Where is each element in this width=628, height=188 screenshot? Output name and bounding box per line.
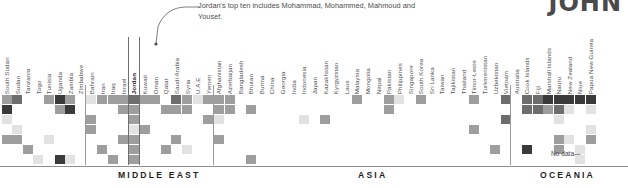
column-label-bahrain: Bahrain	[89, 72, 95, 94]
heatmap-cell[interactable]	[129, 125, 139, 134]
heatmap-cell[interactable]	[129, 105, 139, 114]
column-label-kazakhstan: Kazakhstan	[322, 61, 328, 94]
heatmap-cell[interactable]	[150, 95, 160, 104]
heatmap-cell[interactable]	[586, 135, 596, 144]
heatmap-cell[interactable]	[86, 115, 96, 124]
heatmap-cell[interactable]	[214, 105, 224, 114]
heatmap-cell[interactable]	[299, 115, 309, 124]
heatmap-cell[interactable]	[320, 115, 330, 124]
heatmap-cell[interactable]	[55, 155, 65, 164]
heatmap-cell[interactable]	[140, 95, 150, 104]
heatmap-cell[interactable]	[65, 105, 75, 114]
heatmap-cell[interactable]	[586, 95, 596, 104]
column-label-new-zealand: New Zealand	[567, 56, 573, 94]
heatmap-cell[interactable]	[108, 155, 118, 164]
heatmap-cell[interactable]	[469, 95, 479, 104]
heatmap-cell[interactable]	[246, 105, 256, 114]
heatmap-cell[interactable]	[129, 115, 139, 124]
heatmap-cell[interactable]	[564, 95, 574, 104]
heatmap-cell[interactable]	[129, 135, 139, 144]
heatmap-cell[interactable]	[65, 95, 75, 104]
heatmap-cell[interactable]	[554, 115, 564, 124]
column-label-india: India	[291, 80, 297, 94]
heatmap-cell[interactable]	[522, 95, 532, 104]
heatmap-cell[interactable]	[533, 95, 543, 104]
heatmap-cell[interactable]	[214, 115, 224, 124]
heatmap-cell[interactable]	[384, 105, 394, 114]
annotation-text: Jordan's top ten includes Mohammad, Moha…	[198, 1, 438, 22]
heatmap-cell[interactable]	[2, 135, 12, 144]
heatmap-cell[interactable]	[140, 125, 150, 134]
heatmap-cell[interactable]	[225, 105, 235, 114]
column-label-turkmenistan: Turkmenistan	[482, 56, 488, 94]
heatmap-cell[interactable]	[214, 135, 224, 144]
heatmap-cell[interactable]	[171, 135, 181, 144]
heatmap-cell[interactable]	[65, 155, 75, 164]
heatmap-cell[interactable]	[246, 155, 256, 164]
heatmap-cell[interactable]	[161, 105, 171, 114]
column-label-uganda: Uganda	[57, 72, 63, 94]
heatmap-cell[interactable]	[44, 95, 54, 104]
heatmap-cell[interactable]	[118, 95, 128, 104]
column-labels: South SudanSudanTanzaniaTogoTunisiaUgand…	[0, 36, 628, 94]
heatmap-cell[interactable]	[44, 135, 54, 144]
heatmap-cell[interactable]	[2, 95, 12, 104]
heatmap-cell[interactable]	[55, 95, 65, 104]
heatmap-cell[interactable]	[394, 95, 404, 104]
heatmap-cell[interactable]	[171, 95, 181, 104]
heatmap-cell[interactable]	[97, 145, 107, 154]
column-label-kuwait: Kuwait	[142, 75, 148, 94]
heatmap-cell[interactable]	[55, 105, 65, 114]
heatmap-cell[interactable]	[161, 145, 171, 154]
heatmap-cell[interactable]	[564, 105, 574, 114]
heatmap-cell[interactable]	[12, 95, 22, 104]
heatmap-cell[interactable]	[543, 105, 553, 114]
heatmap-cell[interactable]	[564, 135, 574, 144]
heatmap-cell[interactable]	[33, 155, 43, 164]
column-label-iraq: Iraq	[110, 83, 116, 94]
heatmap-cell[interactable]	[469, 125, 479, 134]
heatmap-cell[interactable]	[129, 95, 139, 104]
heatmap-cell[interactable]	[225, 95, 235, 104]
heatmap-cell[interactable]	[352, 95, 362, 104]
column-label-u-a-e: U.A.E	[195, 77, 201, 94]
heatmap-cell[interactable]	[416, 95, 426, 104]
heatmap-cell[interactable]	[554, 95, 564, 104]
column-label-indonesia: Indonesia	[301, 66, 307, 94]
column-label-jordan: Jordan	[131, 73, 137, 94]
heatmap-cell[interactable]	[554, 105, 564, 114]
heatmap-cell[interactable]	[97, 95, 107, 104]
heatmap-cell[interactable]	[182, 145, 192, 154]
heatmap-cell[interactable]	[214, 95, 224, 104]
heatmap-cell[interactable]	[384, 95, 394, 104]
heatmap-cell[interactable]	[193, 95, 203, 104]
heatmap-cell[interactable]	[533, 105, 543, 114]
heatmap-cell[interactable]	[522, 105, 532, 114]
heatmap-cell[interactable]	[12, 125, 22, 134]
heatmap-cell[interactable]	[182, 95, 192, 104]
heatmap-cell[interactable]	[2, 105, 12, 114]
heatmap-cell[interactable]	[490, 145, 500, 154]
heatmap-cell[interactable]	[554, 135, 564, 144]
heatmap-cell[interactable]	[522, 145, 532, 154]
heatmap-cell[interactable]	[23, 145, 33, 154]
heatmap-cell[interactable]	[129, 155, 139, 164]
heatmap-cell[interactable]	[543, 95, 553, 104]
heatmap-cell[interactable]	[586, 125, 596, 134]
heatmap-cell[interactable]	[129, 145, 139, 154]
column-label-south-sudan: South Sudan	[4, 57, 10, 94]
heatmap-cell[interactable]	[12, 135, 22, 144]
column-label-niue: Niue	[577, 81, 583, 94]
heatmap-cell[interactable]	[2, 115, 12, 124]
column-label-azerbaijan: Azerbaijan	[227, 64, 233, 94]
heatmap-cell[interactable]	[86, 95, 96, 104]
heatmap-cell[interactable]	[108, 95, 118, 104]
heatmap-cell[interactable]	[182, 105, 192, 114]
heatmap-cell[interactable]	[575, 95, 585, 104]
heatmap-cell[interactable]	[118, 105, 128, 114]
heatmap-cell[interactable]	[118, 135, 128, 144]
heatmap-cell[interactable]	[171, 105, 181, 114]
heatmap-cell[interactable]	[586, 105, 596, 114]
heatmap-grid[interactable]	[0, 95, 628, 165]
heatmap-cell[interactable]	[86, 125, 96, 134]
